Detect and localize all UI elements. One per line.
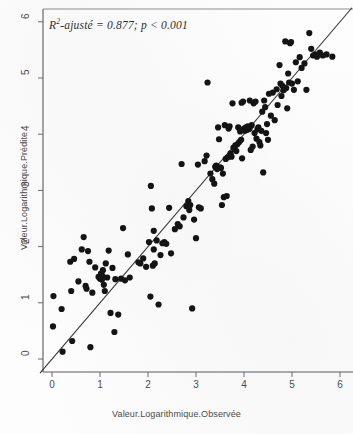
x-tick-label: 4 (236, 379, 252, 390)
annotation-rest: -ajusté = 0.877; p < 0.001 (60, 19, 188, 31)
x-tick-label: 2 (140, 379, 156, 390)
x-tick-label: 6 (332, 379, 348, 390)
y-tick-label: 0 (20, 351, 31, 367)
x-tick-label: 5 (284, 379, 300, 390)
x-tick-label: 0 (44, 379, 60, 390)
y-axis-title-wrapper: Valeur.Logarithmique.Prédite (13, 81, 31, 301)
x-axis-title: Valeur.Logarithmique.Observée (0, 409, 353, 419)
y-tick-label: 6 (20, 13, 31, 29)
plot-canvas (0, 0, 353, 434)
scatter-plot-figure: 0123456 0123456 R2-ajusté = 0.877; p < 0… (0, 0, 353, 434)
x-tick-label: 3 (188, 379, 204, 390)
r-squared-annotation: R2-ajusté = 0.877; p < 0.001 (49, 17, 188, 31)
y-axis-title: Valeur.Logarithmique.Prédite (19, 132, 29, 250)
scatter-points (50, 30, 336, 355)
x-tick-label: 1 (92, 379, 108, 390)
